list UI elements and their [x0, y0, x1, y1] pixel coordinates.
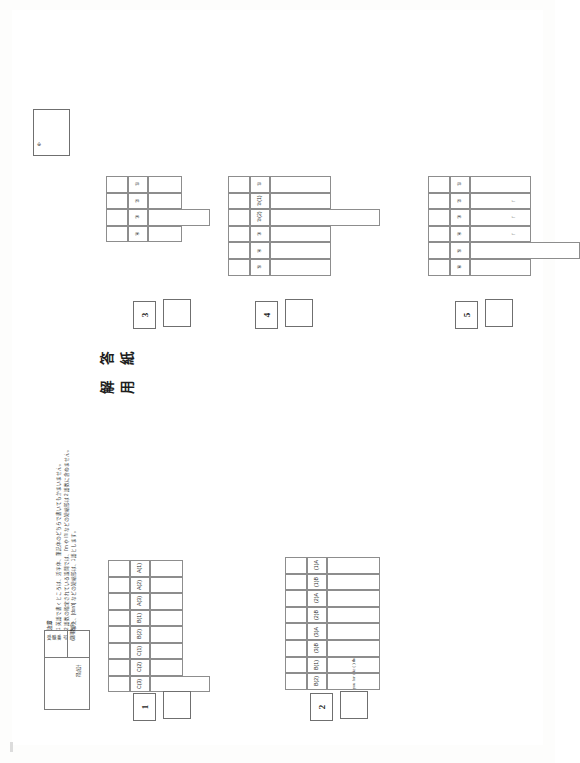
section-4-answer-cell[interactable] [228, 209, 250, 226]
section-1-write-cell[interactable] [150, 610, 183, 627]
section-4-write-cell[interactable] [270, 259, 331, 276]
section-5-answer-cell[interactable] [428, 242, 450, 259]
section-4-write-cell[interactable] [270, 242, 331, 259]
section-2-write-cell[interactable]: I ( ) for you for one hour. [327, 673, 380, 690]
section-3-label-cell: ④ [128, 226, 148, 243]
section-2-answer-cell[interactable] [285, 590, 307, 607]
grading-mark-box[interactable]: ※ [33, 109, 70, 156]
section-5-write-cell[interactable]: ↑ [470, 226, 531, 243]
section-5-write-cell[interactable] [470, 242, 580, 259]
section-4-label-cell: ②(2) [250, 209, 270, 226]
page-title-text: 解 答 用 紙 [96, 324, 122, 394]
section-1-answer-cell[interactable] [108, 643, 130, 660]
section-2-write-cell[interactable] [327, 574, 380, 591]
section-5-label-cell: ② [450, 193, 470, 210]
section-2-write-cell[interactable] [327, 557, 380, 574]
section-1-write-cell[interactable] [150, 593, 183, 610]
section-2-write-cell[interactable] [327, 607, 380, 624]
section-2-answer-cell[interactable] [285, 623, 307, 640]
section-5-write-cell[interactable] [470, 259, 531, 276]
section-4-label-cell: ④ [250, 242, 270, 259]
section-2-answer-cell[interactable] [285, 657, 307, 674]
section-4-answer-cell[interactable] [228, 242, 250, 259]
section-1-answer-cell[interactable] [108, 610, 130, 627]
section-5-label-text: ④ [457, 232, 462, 237]
section-5-answer-cell[interactable] [428, 226, 450, 243]
section-2-answer-cell[interactable] [285, 607, 307, 624]
section-5-write-cell[interactable]: ↑ [470, 193, 531, 210]
arrow-icon: ↑ [510, 233, 516, 236]
section-3-label-cell: ② [128, 193, 148, 210]
section-5-label-text: ① [457, 182, 462, 187]
section-2-label-text: (2)A [314, 594, 319, 604]
section-1-answer-cell[interactable] [108, 626, 130, 643]
section-2-label-cell: (3)B [307, 640, 327, 657]
section-1-answer-cell[interactable] [108, 560, 130, 577]
section-2-write-cell[interactable]: I like ( ) there. [327, 657, 380, 674]
section-3-write-cell[interactable] [148, 209, 210, 226]
section-5-write-cell[interactable] [470, 176, 531, 193]
section-3-label-cell: ③ [128, 209, 148, 226]
section-3-score-box[interactable] [163, 299, 191, 327]
section-2-write-cell[interactable] [327, 590, 380, 607]
section-2-answer-cell[interactable] [285, 640, 307, 657]
section-4-answer-cell[interactable] [228, 176, 250, 193]
section-3-answer-cell[interactable] [106, 226, 128, 243]
section-4-label-text: ④ [257, 248, 262, 253]
section-3-answer-cell[interactable] [106, 176, 128, 193]
section-5-score-box[interactable] [485, 299, 513, 327]
section-2-label-text: (3)A [314, 627, 319, 637]
instructions-heading: 注意 [48, 620, 53, 630]
section-2-answer-cell[interactable] [285, 673, 307, 690]
section-5-answer-cell[interactable] [428, 209, 450, 226]
section-1-write-cell[interactable] [150, 560, 183, 577]
section-1-label-text: A(1) [137, 563, 142, 573]
section-4-answer-cell[interactable] [228, 193, 250, 210]
section-3-number-text: 3 [134, 302, 155, 328]
section-1-label-cell: B(2) [130, 626, 150, 643]
section-1-write-cell[interactable] [150, 577, 183, 594]
section-1-answer-cell[interactable] [108, 593, 130, 610]
section-2-answer-cell[interactable] [285, 574, 307, 591]
asterisk-icon: ※ [37, 141, 41, 147]
section-2-write-cell[interactable] [327, 623, 380, 640]
section-1-answer-cell[interactable] [108, 577, 130, 594]
section-1-label-text: C(1) [137, 646, 142, 656]
section-4-answer-cell[interactable] [228, 226, 250, 243]
section-3-answer-cell[interactable] [106, 193, 128, 210]
section-2-score-box[interactable] [340, 691, 368, 719]
section-1-score-box[interactable] [163, 691, 191, 719]
section-1-answer-cell[interactable] [108, 659, 130, 676]
section-3-write-cell[interactable] [148, 193, 182, 210]
section-2-label-cell: (1)B [307, 574, 327, 591]
section-1-write-cell[interactable] [150, 643, 183, 660]
section-2-number-box: 2 [310, 693, 333, 721]
section-1-answer-cell[interactable] [108, 676, 130, 693]
section-4-answer-cell[interactable] [228, 259, 250, 276]
section-4-score-box[interactable] [285, 299, 313, 327]
section-5-label-text: ⑥ [457, 265, 462, 270]
score-label: 得点計 [75, 665, 81, 677]
section-2-write-cell[interactable] [327, 640, 380, 657]
exam-number-score-box[interactable]: 受 験 番 号(算用数字)得点計 [44, 630, 90, 710]
section-1-write-cell[interactable] [150, 626, 183, 643]
section-1-write-cell[interactable] [150, 676, 210, 693]
section-3-answer-cell[interactable] [106, 209, 128, 226]
section-5-answer-cell[interactable] [428, 259, 450, 276]
section-1-label-cell: A(1) [130, 560, 150, 577]
section-4-write-cell[interactable] [270, 193, 331, 210]
section-4-write-cell[interactable] [270, 209, 380, 226]
section-2-number-text: 2 [311, 694, 332, 720]
section-5-answer-cell[interactable] [428, 176, 450, 193]
section-5-answer-cell[interactable] [428, 193, 450, 210]
section-1-write-cell[interactable] [150, 659, 183, 676]
section-4-write-cell[interactable] [270, 176, 331, 193]
section-5-write-cell[interactable]: ↑ [470, 209, 531, 226]
section-1-label-cell: C(3) [130, 676, 150, 693]
section-3-write-cell[interactable] [148, 226, 182, 243]
section-4-write-cell[interactable] [270, 226, 331, 243]
section-2-answer-cell[interactable] [285, 557, 307, 574]
section-3-write-cell[interactable] [148, 176, 182, 193]
section-2-prompt-text: I ( ) for you for one hour. [351, 673, 356, 690]
section-1-number-box: 1 [133, 693, 156, 721]
